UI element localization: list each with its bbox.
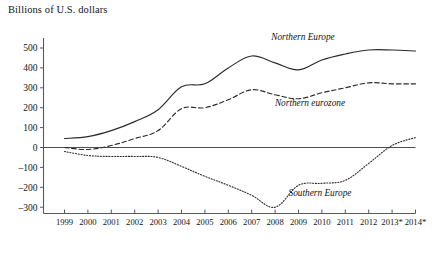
x-tick-label: 2009 <box>290 217 307 227</box>
x-tick-label: 2001 <box>103 217 120 227</box>
x-tick-label: 2002 <box>126 217 143 227</box>
x-tick-label: 2010 <box>313 217 330 227</box>
line-chart-plot: 5004003002001000–100–200–300 19992000200… <box>0 0 432 257</box>
y-tick-label: 400 <box>23 63 38 73</box>
series-annotations: Northern EuropeNorthern eurozoneSouthern… <box>270 32 351 198</box>
y-tick-label: –200 <box>18 183 38 193</box>
x-tick-label: 2005 <box>196 217 213 227</box>
x-tick-label: 2008 <box>267 217 284 227</box>
x-tick-label: 2011 <box>337 217 354 227</box>
annotation-northern-eurozone: Northern eurozone <box>274 98 345 108</box>
x-tick-label: 2004 <box>173 217 191 227</box>
series-line-northern-eurozone <box>65 83 416 150</box>
x-axis: 1999200020012002200320042005200620072008… <box>44 210 427 227</box>
annotation-southern-europe: Southern Europe <box>289 188 352 198</box>
y-tick-label: 500 <box>23 43 38 53</box>
y-tick-label: –300 <box>18 203 38 213</box>
y-axis: 5004003002001000–100–200–300 <box>18 38 44 214</box>
x-tick-label: 2014* <box>405 217 426 227</box>
y-tick-label: 300 <box>23 83 38 93</box>
annotation-northern-europe: Northern Europe <box>270 32 334 42</box>
x-tick-label: 2003 <box>150 217 167 227</box>
x-tick-label: 2013* <box>381 217 402 227</box>
x-tick-label: 2012 <box>360 217 377 227</box>
series-lines <box>65 50 416 208</box>
x-tick-label: 2007 <box>243 217 261 227</box>
y-tick-label: 200 <box>23 103 38 113</box>
y-tick-label: 0 <box>33 143 38 153</box>
y-tick-label: –100 <box>18 163 38 173</box>
x-tick-label: 2006 <box>220 217 238 227</box>
y-tick-label: 100 <box>23 123 38 133</box>
x-tick-label: 1999 <box>56 217 73 227</box>
x-tick-label: 2000 <box>79 217 96 227</box>
chart-container: Billions of U.S. dollars 500400300200100… <box>0 0 432 257</box>
